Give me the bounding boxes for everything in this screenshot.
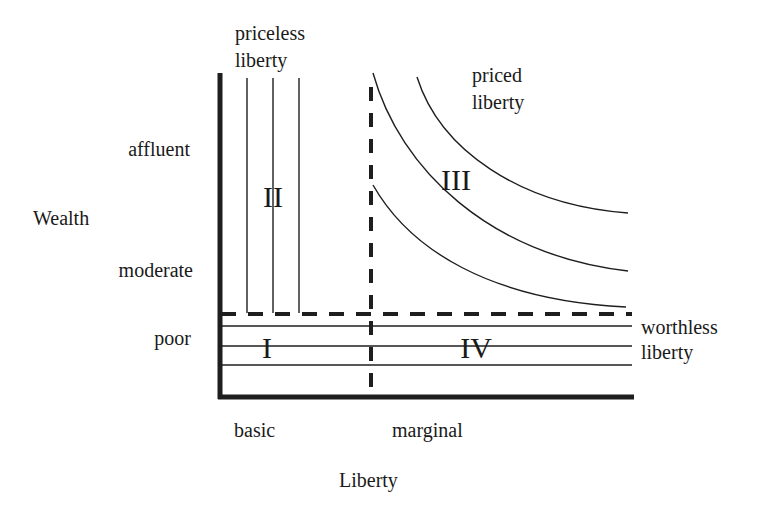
bottom-band-horizontal-lines — [221, 326, 632, 365]
region-iv-label: IV — [460, 331, 492, 364]
liberty-wealth-diagram: II III I IV priceless liberty priced lib… — [0, 0, 766, 519]
region-ii-label: II — [263, 180, 283, 213]
dashed-boundaries — [221, 87, 632, 395]
region-i-label: I — [262, 331, 272, 364]
y-tick-affluent: affluent — [128, 138, 190, 160]
region-iii-label: III — [441, 163, 471, 196]
diagram-canvas: II III I IV priceless liberty priced lib… — [0, 0, 766, 519]
axes — [218, 73, 634, 399]
priced-label-line1: priced — [472, 64, 522, 87]
y-tick-moderate: moderate — [119, 259, 194, 281]
priced-label-line2: liberty — [472, 91, 524, 114]
x-tick-basic: basic — [234, 419, 275, 441]
y-tick-poor: poor — [154, 327, 191, 350]
worthless-label-line1: worthless — [641, 316, 718, 338]
x-axis-title: Liberty — [339, 469, 398, 492]
y-axis-title: Wealth — [33, 207, 89, 229]
priceless-label-line2: liberty — [235, 49, 287, 72]
curve-inner — [373, 185, 626, 307]
worthless-label-line2: liberty — [641, 341, 693, 364]
x-tick-marginal: marginal — [392, 419, 463, 442]
priceless-label-line1: priceless — [235, 22, 305, 45]
